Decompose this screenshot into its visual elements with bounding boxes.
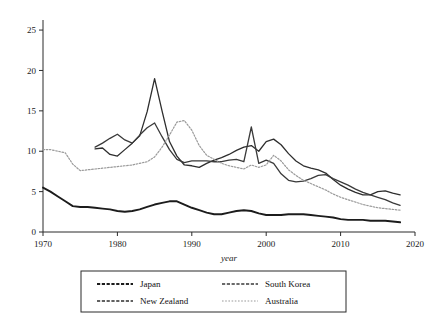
y-tick-label: 20 [27, 66, 37, 76]
y-tick-label: 0 [32, 227, 37, 237]
y-tick-label: 10 [27, 146, 37, 156]
x-tick-label: 1970 [34, 239, 53, 249]
line-chart: 0510152025 197019801990200020102020 year… [0, 0, 428, 322]
series-line-australia [43, 121, 400, 211]
x-axis-ticks: 197019801990200020102020 [34, 232, 425, 249]
chart-page: { "chart_data": { "type": "line", "title… [0, 0, 428, 322]
series-line-south-korea [95, 123, 400, 205]
x-tick-label: 1990 [183, 239, 202, 249]
y-tick-label: 15 [27, 106, 37, 116]
chart-legend: JapanSouth KoreaNew ZealandAustralia [81, 271, 346, 312]
y-axis-ticks: 0510152025 [27, 25, 43, 237]
series-line-japan [43, 188, 400, 223]
x-tick-label: 2020 [406, 239, 425, 249]
series-line-new-zealand [95, 79, 400, 195]
y-tick-label: 5 [32, 187, 37, 197]
x-tick-label: 1980 [108, 239, 127, 249]
x-tick-label: 2010 [332, 239, 351, 249]
x-axis-title: year [220, 253, 237, 263]
legend-border [81, 271, 346, 312]
x-tick-label: 2000 [257, 239, 276, 249]
y-tick-label: 25 [27, 25, 37, 35]
legend-label-south-korea: South Korea [265, 279, 310, 289]
legend-label-new-zealand: New Zealand [140, 296, 189, 306]
data-series-group [43, 79, 400, 223]
legend-label-japan: Japan [140, 279, 161, 289]
legend-label-australia: Australia [265, 296, 298, 306]
